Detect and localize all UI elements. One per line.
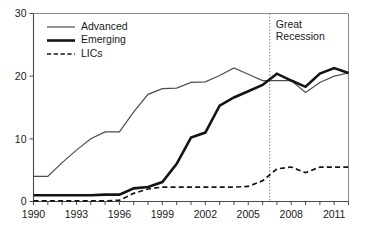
x-tick-label: 1999	[151, 208, 175, 220]
x-tick-label: 2002	[194, 208, 218, 220]
great-recession-annotation-line: Recession	[276, 30, 325, 42]
y-tick-label: 0	[21, 195, 27, 207]
legend-label-emerging: Emerging	[81, 33, 126, 45]
chart-legend: AdvancedEmergingLICs	[47, 20, 128, 59]
y-axis-ticks: 0102030	[15, 7, 34, 207]
x-tick-label: 1993	[65, 208, 89, 220]
y-tick-label: 10	[15, 133, 27, 145]
x-tick-label: 2005	[237, 208, 261, 220]
chart-figure: 0102030 19901993199619992002200520082011…	[0, 0, 365, 228]
event-annotations: GreatRecession	[270, 14, 325, 202]
y-tick-label: 30	[15, 7, 27, 19]
y-tick-label: 20	[15, 70, 27, 82]
x-tick-label: 1996	[108, 208, 132, 220]
x-tick-label: 1990	[22, 208, 46, 220]
series-line-emerging	[34, 68, 349, 195]
x-tick-label: 2008	[280, 208, 304, 220]
great-recession-annotation-line: Great	[276, 18, 302, 30]
legend-label-advanced: Advanced	[81, 20, 128, 32]
data-series-group	[34, 68, 349, 201]
x-tick-label: 2011	[323, 208, 346, 220]
x-axis-ticks: 19901993199619992002200520082011	[22, 202, 349, 220]
line-chart-svg: 0102030 19901993199619992002200520082011…	[0, 0, 365, 228]
legend-label-lics: LICs	[81, 47, 103, 59]
